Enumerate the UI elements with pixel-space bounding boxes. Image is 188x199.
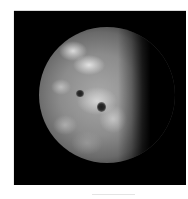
bottom-divider	[92, 194, 135, 195]
terminator-shadow	[39, 27, 175, 163]
image-frame: gibbous moon with cratered surface	[14, 11, 186, 185]
image-subject: gibbous moon with cratered surface	[14, 11, 15, 12]
